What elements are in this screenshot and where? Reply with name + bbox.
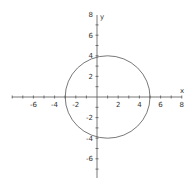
x-tick-label: 2 — [116, 101, 120, 109]
x-tick-label: 8 — [180, 101, 184, 109]
y-axis-label: y — [100, 13, 104, 21]
x-axis-label: x — [180, 87, 184, 95]
axes — [12, 15, 182, 178]
y-tick-label: 8 — [89, 11, 93, 19]
x-tick-label: 4 — [137, 101, 142, 109]
circle-graph: -6-4-224688642-2-4-6 x y — [0, 0, 196, 188]
x-tick-label: -2 — [72, 101, 79, 109]
y-tick-label: -2 — [86, 114, 93, 122]
x-tick-label: -4 — [51, 101, 59, 109]
y-tick-label: 2 — [89, 73, 93, 81]
tick-labels: -6-4-224688642-2-4-6 — [30, 11, 184, 163]
y-tick-label: 6 — [89, 32, 94, 40]
x-tick-label: -6 — [30, 101, 38, 109]
x-tick-label: 6 — [158, 101, 163, 109]
y-tick-label: -6 — [86, 155, 94, 163]
